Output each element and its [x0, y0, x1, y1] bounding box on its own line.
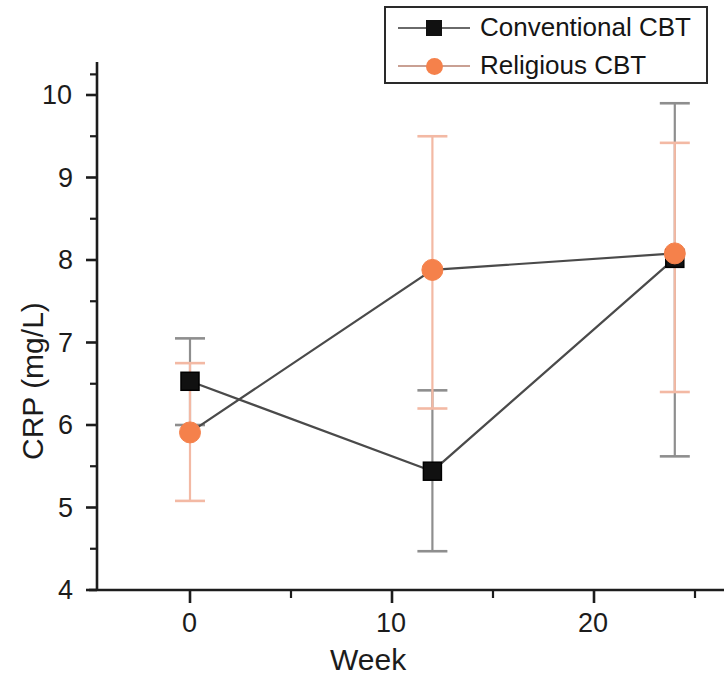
legend-label-conventional: Conventional CBT [480, 12, 691, 43]
x-axis-label: Week [330, 643, 406, 674]
y-tick-label-9: 9 [58, 163, 73, 194]
data-point-conventional-cbt-week-12[interactable] [423, 462, 441, 480]
data-point-religious-cbt-week-24[interactable] [664, 243, 685, 264]
y-tick-label-5: 5 [58, 493, 73, 524]
circle-marker-icon [426, 58, 443, 75]
y-tick-label-8: 8 [58, 245, 73, 276]
data-point-religious-cbt-week-12[interactable] [422, 259, 443, 280]
y-tick-label-7: 7 [58, 328, 73, 359]
legend-sample-conventional [398, 18, 470, 38]
x-tick-label-0: 0 [182, 608, 197, 639]
legend-item-conventional: Conventional CBT [386, 8, 706, 47]
x-tick-label-20: 20 [578, 608, 608, 639]
legend-sample-religious [398, 56, 470, 76]
legend-item-religious: Religious CBT [386, 46, 706, 85]
data-point-conventional-cbt-week-0[interactable] [181, 372, 199, 390]
y-tick-label-6: 6 [58, 410, 73, 441]
y-tick-label-4: 4 [58, 575, 73, 606]
y-tick-label-10: 10 [42, 80, 72, 111]
x-tick-label-10: 10 [376, 608, 406, 639]
legend: Conventional CBT Religious CBT [384, 6, 708, 84]
data-point-religious-cbt-week-0[interactable] [180, 422, 201, 443]
y-axis-label: CRP (mg/L) [16, 302, 50, 460]
square-marker-icon [426, 20, 442, 36]
legend-label-religious: Religious CBT [480, 50, 646, 81]
